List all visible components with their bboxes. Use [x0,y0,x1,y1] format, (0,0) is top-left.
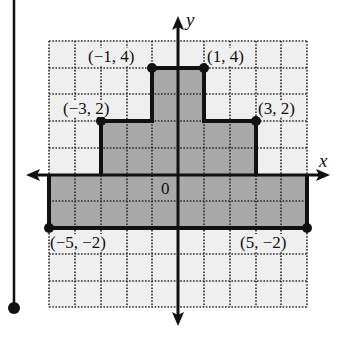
coordinate-plane-svg [0,0,347,338]
point-label-3-2: (3, 2) [258,100,295,117]
y-axis-label: y [186,10,194,29]
point-label-neg3-2: (−3, 2) [63,100,109,117]
point-5-neg2 [302,223,312,233]
point-neg5-neg2 [44,223,54,233]
point-neg1-4 [147,63,157,73]
point-label-5-neg2: (5, −2) [240,234,286,251]
coordinate-plane-figure: y x 0 (−1, 4) (1, 4) (−3, 2) (3, 2) (−5,… [0,0,347,338]
point-label-neg5-neg2: (−5, −2) [50,234,106,251]
point-label-neg1-4: (−1, 4) [88,48,134,65]
margin-rule-dot [8,302,20,314]
origin-label: 0 [161,180,170,197]
point-label-1-4: (1, 4) [207,48,244,65]
x-axis-label: x [319,151,327,170]
